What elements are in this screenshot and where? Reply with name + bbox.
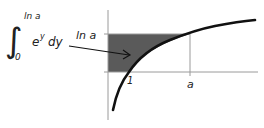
differential: dy	[48, 35, 64, 49]
integral-diagram: ∫ ln a 0 e y dy ln a 1 a	[0, 0, 264, 128]
tick-label-a: a	[187, 78, 194, 91]
tick-label-1: 1	[127, 75, 133, 86]
integrand-base: e	[32, 35, 39, 49]
upper-limit: ln a	[24, 11, 41, 21]
shaded-area	[108, 34, 190, 72]
integrand-exponent: y	[39, 32, 45, 41]
lower-limit: 0	[15, 52, 21, 62]
ln-a-label: ln a	[76, 29, 97, 42]
